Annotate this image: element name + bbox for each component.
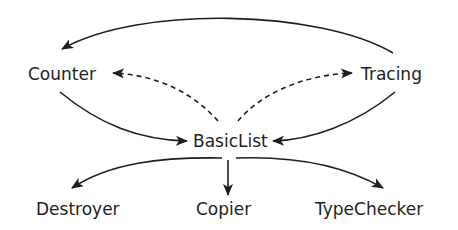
node-copier: Copier xyxy=(196,199,251,219)
node-counter: Counter xyxy=(28,64,96,84)
edge-tracing-to-basiclist xyxy=(273,92,395,141)
edge-basiclist-to-typechecker xyxy=(236,158,383,188)
node-typechecker: TypeChecker xyxy=(314,199,423,219)
node-tracing: Tracing xyxy=(360,64,422,84)
edge-basiclist-to-destroyer xyxy=(72,158,222,188)
edge-counter-to-basiclist xyxy=(60,92,187,141)
node-destroyer: Destroyer xyxy=(36,199,120,219)
node-basiclist: BasicList xyxy=(193,131,268,151)
class-diagram: Counter Tracing BasicList Destroyer Copi… xyxy=(0,0,458,230)
edge-basiclist-to-counter xyxy=(113,73,218,121)
diagram-canvas: Counter Tracing BasicList Destroyer Copi… xyxy=(0,0,458,230)
edge-basiclist-to-tracing xyxy=(238,73,352,121)
edge-tracing-to-counter xyxy=(62,18,393,53)
